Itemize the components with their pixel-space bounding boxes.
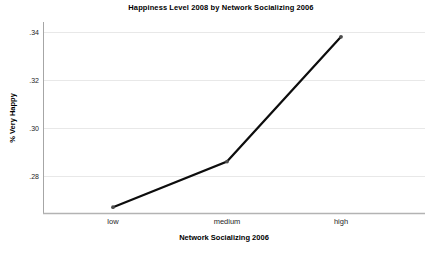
x-tick-label-high: high: [334, 217, 348, 226]
x-tick-label-medium: medium: [214, 217, 241, 226]
data-point-high: [339, 35, 343, 39]
data-point-low: [111, 205, 115, 209]
happiness-line-chart: Happiness Level 2008 by Network Socializ…: [0, 0, 428, 255]
data-line: [113, 37, 341, 207]
x-axis-title: Network Socializing 2006: [179, 233, 269, 242]
y-tick-label: .30: [0, 124, 39, 133]
y-tick-label: .32: [0, 76, 39, 85]
x-tick-label-low: low: [107, 217, 118, 226]
y-tick-label: .28: [0, 172, 39, 181]
y-tick-label: .34: [0, 28, 39, 37]
data-point-medium: [225, 160, 229, 164]
